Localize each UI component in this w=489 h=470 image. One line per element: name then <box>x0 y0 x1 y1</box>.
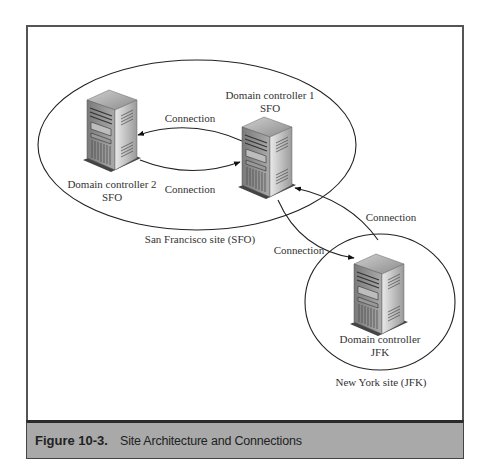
connection-dc2-to-dc1 <box>140 160 240 171</box>
server-tower-icon <box>350 254 408 336</box>
figure-caption-bar: Figure 10-3. Site Architecture and Conne… <box>26 420 464 459</box>
site-architecture-diagram: Domain controller 1 SFO Domain controlle… <box>0 0 489 470</box>
server-tower-icon <box>238 117 296 199</box>
server-label-jfk-line2: JFK <box>371 346 389 358</box>
connection-label: Connection <box>274 244 325 256</box>
connection-label: Connection <box>165 112 216 124</box>
server-label-jfk-line1: Domain controller <box>340 333 421 345</box>
server-label-dc2-line1: Domain controller 2 <box>67 178 156 190</box>
server-label-dc2-line2: SFO <box>102 191 122 203</box>
connection-label: Connection <box>165 183 216 195</box>
site-label-sfo: San Francisco site (SFO) <box>145 233 256 246</box>
connection-dc1-to-dc2 <box>138 128 242 141</box>
connection-label: Connection <box>366 211 417 223</box>
site-label-jfk: New York site (JFK) <box>335 376 426 389</box>
figure-caption: Site Architecture and Connections <box>120 434 302 448</box>
server-label-dc1-line1: Domain controller 1 <box>225 89 314 101</box>
site-boundary-sfo <box>38 60 356 230</box>
server-tower-icon <box>83 90 141 172</box>
figure-number: Figure 10-3. <box>35 433 120 448</box>
server-label-dc1-line2: SFO <box>260 102 280 114</box>
